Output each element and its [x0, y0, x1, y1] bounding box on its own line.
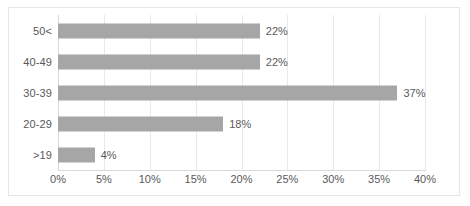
x-tick-label: 40%: [414, 173, 436, 185]
x-tick-label: 10%: [139, 173, 161, 185]
bar-value-label: 37%: [397, 87, 425, 99]
bar: [58, 147, 95, 162]
bar-row: 30-3937%: [9, 77, 459, 108]
bar: [58, 85, 397, 100]
bar: [58, 23, 260, 38]
category-label-wrap: 20-29: [9, 108, 58, 139]
x-tick-label: 15%: [185, 173, 207, 185]
bar: [58, 54, 260, 69]
bar-row: 40-4922%: [9, 46, 459, 77]
bar-row: >194%: [9, 139, 459, 170]
category-label: 30-39: [23, 87, 52, 99]
axis-baseline: [58, 170, 426, 171]
category-label-wrap: 50<: [9, 15, 58, 46]
x-tick-label: 0%: [50, 173, 66, 185]
x-tick-label: 20%: [230, 173, 252, 185]
category-label-wrap: >19: [9, 139, 58, 170]
x-tick-label: 5%: [96, 173, 112, 185]
x-tick-label: 35%: [368, 173, 390, 185]
bar-value-label: 22%: [260, 25, 288, 37]
bar-value-label: 22%: [260, 56, 288, 68]
x-tick-label: 30%: [322, 173, 344, 185]
category-label-wrap: 40-49: [9, 46, 58, 77]
bar-row: 20-2918%: [9, 108, 459, 139]
category-label: 50<: [33, 25, 52, 37]
category-label: 40-49: [23, 56, 52, 68]
bar-value-label: 18%: [223, 118, 251, 130]
category-label: >19: [33, 149, 52, 161]
category-label-wrap: 30-39: [9, 77, 58, 108]
category-label: 20-29: [23, 118, 52, 130]
x-tick-label: 25%: [276, 173, 298, 185]
chart-frame: 50<22%40-4922%30-3937%20-2918%>194% 0%5%…: [8, 7, 460, 196]
bar: [58, 116, 223, 131]
bar-row: 50<22%: [9, 15, 459, 46]
x-axis: 0%5%10%15%20%25%30%35%40%: [58, 173, 425, 191]
bar-value-label: 4%: [95, 149, 117, 161]
